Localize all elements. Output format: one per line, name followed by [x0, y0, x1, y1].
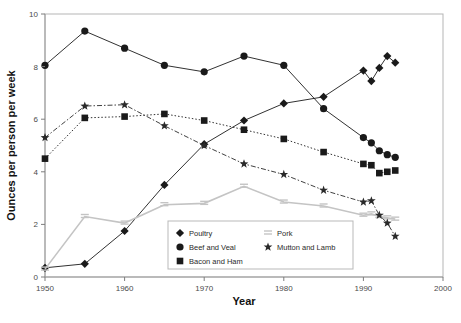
data-point	[280, 62, 287, 69]
data-point	[281, 136, 288, 143]
data-point	[368, 139, 375, 146]
data-point	[160, 121, 169, 129]
y-axis-title: Ounces per person per week	[5, 69, 17, 220]
data-point	[41, 62, 48, 69]
data-point	[376, 170, 383, 177]
y-tick-label: 10	[29, 10, 38, 19]
data-point	[320, 149, 327, 156]
x-tick-label: 1960	[116, 284, 134, 293]
y-tick-label: 2	[34, 220, 39, 229]
data-point	[359, 66, 367, 74]
legend-label: Bacon and Ham	[189, 257, 243, 266]
data-point	[392, 154, 399, 161]
data-point	[360, 134, 367, 141]
y-tick-label: 4	[34, 168, 39, 177]
x-tick-label: 1950	[36, 284, 54, 293]
data-point	[359, 197, 368, 205]
data-point	[360, 161, 367, 168]
series-mutton-and-lamb	[41, 100, 400, 240]
legend-label: Pork	[277, 229, 293, 238]
data-point	[201, 117, 208, 124]
data-point	[384, 151, 391, 158]
data-point	[319, 186, 328, 194]
data-point	[161, 111, 168, 118]
legend-group[interactable]: PoultryPorkBeef and VealMutton and LambB…	[168, 221, 353, 269]
data-point	[240, 116, 248, 124]
data-point	[375, 64, 383, 72]
series-beef-and-veal	[41, 27, 398, 160]
legend-marker-circle-icon	[176, 243, 183, 250]
data-point	[240, 159, 249, 167]
y-tick-label: 6	[34, 115, 39, 124]
data-point	[81, 27, 88, 34]
legend-label: Poultry	[189, 229, 213, 238]
figure-container: 0246810195019601970198019902000 PoultryP…	[0, 0, 461, 323]
data-point	[392, 167, 399, 174]
data-point	[279, 170, 288, 178]
y-tick-label: 0	[34, 273, 39, 282]
data-point	[201, 68, 208, 75]
data-point	[280, 99, 288, 107]
data-point	[391, 232, 400, 240]
y-tick-label: 8	[34, 63, 39, 72]
series-line	[45, 31, 395, 157]
data-point	[82, 115, 89, 122]
x-tick-label: 1980	[275, 284, 293, 293]
data-point	[368, 162, 375, 169]
data-point	[42, 155, 49, 162]
data-point	[320, 93, 328, 101]
data-point	[367, 77, 375, 85]
data-point	[384, 169, 391, 176]
data-point	[240, 52, 247, 59]
data-point	[120, 100, 129, 108]
data-point	[241, 126, 248, 133]
data-point	[376, 147, 383, 154]
data-point	[320, 105, 327, 112]
meat-consumption-line-chart: 0246810195019601970198019902000 PoultryP…	[0, 0, 461, 323]
data-point	[121, 45, 128, 52]
legend-label: Beef and Veal	[189, 243, 236, 252]
x-tick-label: 2000	[434, 284, 452, 293]
data-point	[367, 196, 376, 204]
legend-label: Mutton and Lamb	[277, 243, 335, 252]
x-axis-title: Year	[232, 295, 256, 307]
x-tick-label: 1970	[195, 284, 213, 293]
x-tick-label: 1990	[355, 284, 373, 293]
data-point	[121, 113, 128, 120]
series-bacon-and-ham	[42, 111, 399, 177]
legend-marker-square-icon	[177, 258, 184, 265]
data-point	[161, 62, 168, 69]
